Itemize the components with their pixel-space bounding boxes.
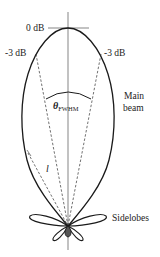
theta-arc bbox=[46, 92, 91, 99]
minus3db-dashed-left bbox=[36, 54, 68, 226]
radiation-pattern-diagram: 0 dB -3 dB -3 dB θFWHM l Main beam Sidel… bbox=[0, 0, 160, 257]
label-sidelobes: Sidelobes bbox=[112, 213, 149, 223]
label-minus3db-right: -3 dB bbox=[104, 48, 125, 58]
sidelobe-right-upper bbox=[68, 215, 106, 226]
label-main-beam-line2: beam bbox=[123, 103, 144, 113]
sidelobe-left-upper bbox=[30, 215, 68, 226]
label-length: l bbox=[46, 163, 49, 174]
label-theta-fwhm: θFWHM bbox=[53, 100, 79, 112]
label-main-beam-line1: Main bbox=[124, 91, 144, 101]
label-zero-db: 0 dB bbox=[26, 23, 44, 33]
label-minus3db-left: -3 dB bbox=[5, 48, 26, 58]
minus3db-dashed-right bbox=[68, 54, 101, 226]
